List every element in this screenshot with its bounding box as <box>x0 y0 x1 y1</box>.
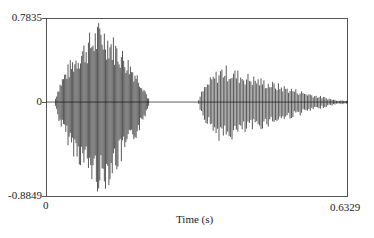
waveform <box>46 18 348 197</box>
y-max-label: 0.7835 <box>0 11 42 23</box>
x-min-label: 0 <box>43 199 49 211</box>
x-axis-title: Time (s) <box>176 213 213 225</box>
x-max-label: 0.6329 <box>330 201 360 213</box>
y-min-label: -0.8849 <box>0 189 42 201</box>
y-zero-label: 0 <box>0 95 42 107</box>
